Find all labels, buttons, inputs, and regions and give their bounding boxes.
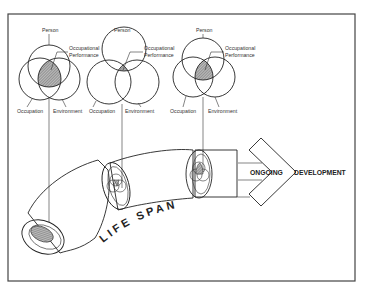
label-performance-2: Performance [144, 52, 174, 58]
life-span-tube: LIFE SPAN [16, 150, 262, 261]
venn-diagram-2: Person Occupational Performance Occupati… [0, 0, 366, 294]
overlap-shade [0, 0, 366, 294]
overlap-shade [0, 0, 366, 294]
ongoing-label: ONGOING [250, 169, 283, 176]
life-span-diagram: Person Occupational Performance Occupati… [0, 0, 366, 294]
label-person: Person [114, 27, 131, 33]
venn-diagram-1: Person Occupational Performance Occupati… [0, 0, 366, 294]
overlap-shade [0, 0, 366, 294]
ongoing-development-arrow: ONGOING DEVELOPMENT [249, 138, 347, 206]
label-person: Person [42, 27, 59, 33]
label-performance-2: Performance [225, 52, 255, 58]
venn-diagram-3: Person Occupational Performance Occupati… [0, 0, 366, 294]
label-occupation: Occupation [170, 108, 196, 114]
label-environment: Environment [208, 108, 238, 114]
label-occupation: Occupation [17, 108, 43, 114]
tube-segment-2 [110, 150, 193, 210]
label-occupation: Occupation [89, 108, 115, 114]
development-label: DEVELOPMENT [294, 169, 347, 176]
label-performance-1: Occupational [144, 45, 174, 51]
label-performance-1: Occupational [225, 45, 255, 51]
diagram-frame [8, 14, 355, 281]
tube-ring-3-shade [196, 163, 203, 174]
label-performance-2: Performance [69, 52, 99, 58]
label-environment: Environment [125, 108, 155, 114]
label-person: Person [196, 27, 213, 33]
label-performance-1: Occupational [69, 45, 99, 51]
label-environment: Environment [53, 108, 83, 114]
